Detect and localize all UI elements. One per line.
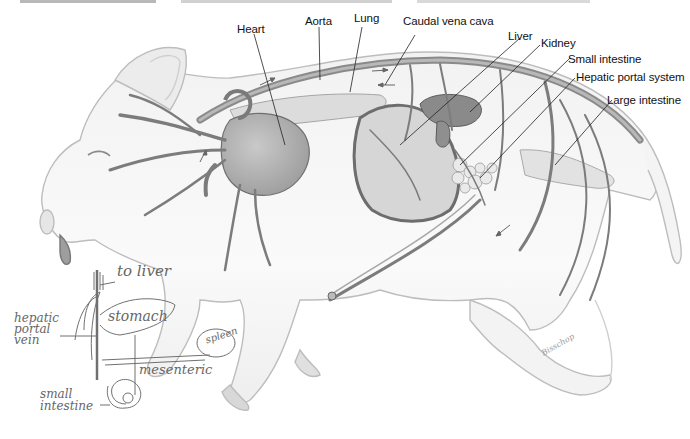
label-large-intestine: Large intestine — [607, 94, 681, 106]
pig-illustration — [0, 0, 690, 439]
note-small-intestine: small intestine — [40, 388, 93, 412]
figure: Heart Aorta Lung Caudal vena cava Liver … — [0, 0, 690, 439]
label-lung: Lung — [354, 12, 379, 24]
note-intestine-line: intestine — [40, 400, 93, 412]
note-hepatic-portal-vein: hepatic portal vein — [14, 313, 59, 346]
label-caudal-vena-cava: Caudal vena cava — [403, 15, 493, 27]
note-to-liver: to liver — [117, 262, 171, 280]
label-liver: Liver — [508, 30, 532, 42]
label-small-intestine: Small intestine — [568, 53, 641, 65]
note-mesenteric: mesenteric — [139, 362, 212, 377]
label-hepatic-portal-system: Hepatic portal system — [576, 71, 684, 83]
umbilical-cord-cut — [328, 292, 336, 300]
label-kidney: Kidney — [541, 37, 576, 49]
label-aorta: Aorta — [305, 15, 332, 27]
label-heart: Heart — [237, 23, 265, 35]
note-stomach: stomach — [108, 308, 168, 324]
note-vein-line: vein — [14, 335, 59, 346]
